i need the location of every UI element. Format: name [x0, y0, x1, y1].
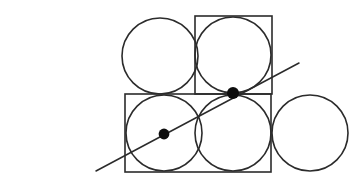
figure-container: (iii): [0, 0, 364, 183]
diagram-background: [0, 0, 364, 183]
lower-marked-point: [159, 129, 170, 140]
upper-marked-point: [227, 87, 239, 99]
geometry-diagram: [0, 0, 364, 183]
